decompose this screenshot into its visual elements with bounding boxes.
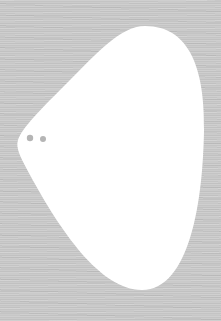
dot-left [27, 135, 33, 141]
wood-texture-background [0, 0, 221, 321]
shape-layer [0, 0, 221, 321]
dot-right [40, 136, 46, 142]
white-blob-shape [17, 26, 204, 290]
